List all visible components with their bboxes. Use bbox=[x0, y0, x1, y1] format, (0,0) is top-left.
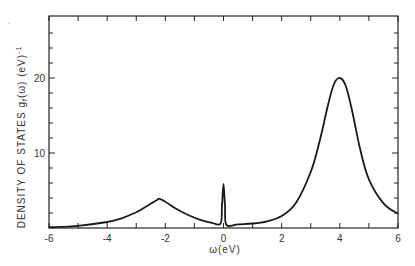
y-axis-title: DENSITY OF STATES gf(ω) (eV)-1 bbox=[15, 46, 28, 229]
axis-ticks bbox=[49, 16, 398, 228]
x-axis-title: ω(eV) bbox=[209, 244, 241, 255]
y-tick-label: 10 bbox=[34, 148, 46, 159]
x-tick-label: 6 bbox=[395, 233, 401, 244]
x-tick-label: -2 bbox=[161, 233, 170, 244]
x-tick-labels: -6-4-20246 bbox=[45, 233, 402, 244]
dos-curve bbox=[49, 78, 398, 227]
x-tick-label: 0 bbox=[221, 233, 227, 244]
speck-mark bbox=[8, 22, 10, 24]
x-tick-label: 2 bbox=[279, 233, 285, 244]
density-of-states-chart: -6-4-20246 1020 ω(eV) DENSITY OF STATES … bbox=[0, 0, 415, 266]
x-tick-label: -4 bbox=[103, 233, 112, 244]
plot-frame bbox=[49, 16, 398, 228]
x-tick-label: -6 bbox=[45, 233, 54, 244]
x-tick-label: 4 bbox=[337, 233, 343, 244]
y-tick-label: 20 bbox=[34, 73, 46, 84]
y-tick-labels: 1020 bbox=[34, 73, 46, 159]
